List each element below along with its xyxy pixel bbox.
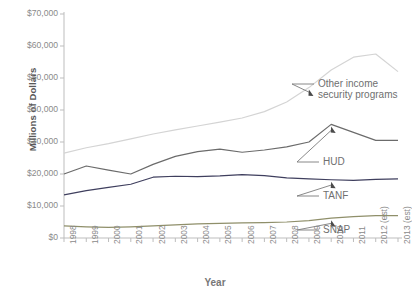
- series-label-other-income-security-programs: Other incomesecurity programs: [318, 78, 410, 100]
- y-tick-label: $50,000: [4, 72, 58, 82]
- x-tick-label: 1998: [68, 225, 78, 244]
- x-tick-label: 2012 (est): [379, 206, 389, 244]
- x-tick-label: 2001: [134, 225, 144, 244]
- x-tick-label: 2003: [179, 225, 189, 244]
- x-tick-label: 2000: [112, 225, 122, 244]
- series-label-tanf: TANF: [323, 190, 348, 201]
- annotation-arrow-head: [331, 126, 336, 132]
- chart-container: Millions of Dollars Year $70,000$60,000$…: [0, 0, 412, 299]
- y-tick-label: $60,000: [4, 40, 58, 50]
- y-axis-tick-labels: $70,000$60,000$50,000$40,000$30,000$20,0…: [0, 0, 58, 299]
- x-tick-label: 2005: [223, 225, 233, 244]
- plot-area: [0, 0, 412, 299]
- y-tick-label: $30,000: [4, 136, 58, 146]
- x-tick-label: 2008: [290, 225, 300, 244]
- x-tick-label: 2007: [268, 225, 278, 244]
- annotation-arrow-head: [331, 182, 336, 189]
- x-tick-label: 1999: [90, 225, 100, 244]
- axis-lines: [64, 12, 402, 238]
- series-label-snap: SNAP: [323, 224, 350, 235]
- x-tick-label: 2013 (est): [402, 206, 412, 244]
- x-tick-label: 2006: [246, 225, 256, 244]
- x-tick-label: 2009: [312, 225, 322, 244]
- x-tick-label: 2002: [157, 225, 167, 244]
- y-tick-label: $40,000: [4, 104, 58, 114]
- series-line-other-income-security-programs: [64, 54, 398, 153]
- y-tick-label: $70,000: [4, 8, 58, 18]
- x-tick-label: 2004: [201, 225, 211, 244]
- y-tick-label: $10,000: [4, 200, 58, 210]
- annotation-arrow-head: [308, 90, 313, 97]
- x-tick-label: 2011: [357, 226, 367, 244]
- axis-ticks: [60, 14, 398, 242]
- x-axis-title: Year: [150, 277, 280, 288]
- y-tick-label: $0: [4, 232, 58, 242]
- series-line-hud: [64, 124, 398, 174]
- y-tick-label: $20,000: [4, 168, 58, 178]
- series-label-hud: HUD: [323, 156, 345, 167]
